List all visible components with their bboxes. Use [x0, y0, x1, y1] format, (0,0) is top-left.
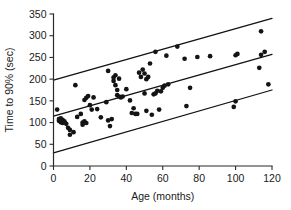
- data-point: [259, 52, 264, 57]
- x-tick-label: 20: [84, 172, 96, 184]
- data-point: [117, 76, 122, 81]
- data-point: [182, 56, 187, 61]
- y-tick-label: 350: [29, 8, 47, 20]
- data-point: [89, 107, 94, 112]
- data-point: [106, 69, 111, 74]
- data-point: [128, 98, 133, 103]
- data-point: [166, 82, 171, 87]
- data-point: [184, 104, 189, 109]
- y-tick-label: 0: [41, 160, 47, 172]
- data-point: [231, 105, 236, 110]
- data-point: [120, 94, 125, 99]
- data-point: [131, 106, 136, 111]
- scatter-chart: 050100150200250300350 020406080100120 Ag…: [0, 0, 291, 210]
- data-point: [142, 71, 147, 76]
- data-point: [88, 103, 93, 108]
- data-point: [208, 54, 213, 59]
- data-point: [157, 107, 162, 112]
- data-point: [55, 107, 60, 112]
- fit-line: [54, 18, 273, 80]
- data-point: [233, 99, 238, 104]
- y-tick-label: 100: [29, 116, 47, 128]
- x-axis-title: Age (months): [131, 190, 194, 202]
- y-tick-label: 150: [29, 95, 47, 107]
- data-point: [262, 49, 267, 54]
- x-tick-label: 60: [157, 172, 169, 184]
- chart-canvas: 050100150200250300350 020406080100120 Ag…: [0, 0, 291, 210]
- x-tick-label: 100: [227, 172, 245, 184]
- y-tick-label: 250: [29, 51, 47, 63]
- data-point: [91, 95, 96, 100]
- y-tick-label: 200: [29, 73, 47, 85]
- data-point: [108, 124, 113, 129]
- data-point: [144, 108, 149, 113]
- x-axis-ticks: 020406080100120: [51, 166, 281, 184]
- data-point: [109, 117, 114, 122]
- data-point: [142, 91, 147, 96]
- data-point: [148, 61, 153, 66]
- data-point: [137, 70, 142, 75]
- y-tick-label: 50: [35, 138, 47, 150]
- data-point: [175, 44, 180, 49]
- data-point: [124, 87, 129, 92]
- data-point: [135, 112, 140, 117]
- data-point: [115, 88, 120, 93]
- data-point: [259, 29, 264, 34]
- data-point: [71, 130, 76, 135]
- x-tick-label: 40: [120, 172, 132, 184]
- y-tick-label: 300: [29, 29, 47, 41]
- data-point: [86, 94, 91, 99]
- y-axis-title: Time to 90% (sec): [3, 48, 15, 133]
- data-point: [195, 55, 200, 60]
- data-point: [78, 112, 83, 117]
- data-point: [139, 75, 144, 80]
- data-point: [164, 53, 169, 58]
- data-point: [235, 52, 240, 57]
- data-point: [113, 83, 118, 88]
- data-point: [153, 49, 158, 54]
- data-point: [266, 82, 271, 87]
- data-point: [75, 115, 80, 120]
- y-axis-ticks: 050100150200250300350: [29, 8, 54, 172]
- data-point: [257, 66, 262, 71]
- data-point: [95, 107, 100, 112]
- data-point: [188, 85, 193, 90]
- data-point: [146, 75, 151, 80]
- data-point: [84, 121, 89, 126]
- data-point: [73, 83, 78, 88]
- x-tick-label: 0: [51, 172, 57, 184]
- data-point: [104, 100, 109, 105]
- x-tick-label: 120: [263, 172, 281, 184]
- data-point: [113, 73, 118, 78]
- x-tick-label: 80: [193, 172, 205, 184]
- data-point: [98, 115, 103, 120]
- data-point: [149, 112, 154, 117]
